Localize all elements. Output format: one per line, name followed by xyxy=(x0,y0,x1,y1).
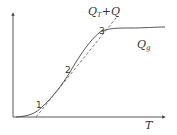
heat-removal-line-label: QT+Q xyxy=(88,5,120,19)
heat-generation-curve-label: Qg xyxy=(137,38,151,52)
point-2-label: 2 xyxy=(65,65,71,75)
point-1-label: 1 xyxy=(36,100,42,110)
heat-balance-diagram: QT+Q Qg T 1 2 3 xyxy=(0,0,177,135)
point-3-label: 3 xyxy=(99,26,105,36)
x-axis-label: T xyxy=(145,119,154,132)
